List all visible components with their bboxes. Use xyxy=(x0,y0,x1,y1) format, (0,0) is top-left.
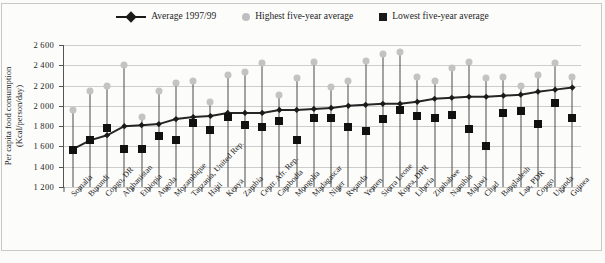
highest-point-marker xyxy=(448,65,455,72)
average-point-marker xyxy=(518,92,524,98)
highest-point-marker xyxy=(121,62,128,69)
lowest-point-marker xyxy=(206,126,214,134)
x-tick xyxy=(374,187,375,192)
highest-point-marker xyxy=(500,74,507,81)
highest-point-marker xyxy=(293,75,300,82)
lowest-point-marker xyxy=(534,120,542,128)
x-tick xyxy=(546,187,547,192)
lowest-point-marker xyxy=(172,136,180,144)
highest-point-marker xyxy=(431,77,438,84)
x-tick xyxy=(219,187,220,192)
y-tick-label: 1 400 xyxy=(33,162,54,172)
x-tick xyxy=(201,187,202,192)
lowest-point-marker xyxy=(499,109,507,117)
average-point-marker xyxy=(156,121,162,127)
highest-point-marker xyxy=(362,58,369,65)
lowest-point-marker xyxy=(258,123,266,131)
x-tick xyxy=(270,187,271,192)
average-point-marker xyxy=(466,94,472,100)
lowest-point-marker xyxy=(344,123,352,131)
average-point-marker xyxy=(362,102,368,108)
square-marker-icon xyxy=(379,13,387,21)
highest-point-marker xyxy=(397,49,404,56)
average-point-marker xyxy=(138,122,144,128)
lowest-point-marker xyxy=(293,136,301,144)
x-tick xyxy=(98,187,99,192)
legend-item-highest: Highest five-year average xyxy=(242,12,353,22)
highest-point-marker xyxy=(310,59,317,66)
plot-area xyxy=(63,45,581,188)
x-tick xyxy=(64,187,65,192)
lowest-point-marker xyxy=(310,114,318,122)
highest-point-marker xyxy=(86,87,93,94)
lowest-point-marker xyxy=(379,115,387,123)
x-tick xyxy=(477,187,478,192)
highest-point-marker xyxy=(465,59,472,66)
average-point-marker xyxy=(259,110,265,116)
highest-point-marker xyxy=(379,51,386,58)
highest-point-marker xyxy=(552,60,559,67)
highest-point-marker xyxy=(328,83,335,90)
lowest-point-marker xyxy=(465,125,473,133)
highest-point-marker xyxy=(104,82,111,89)
x-tick xyxy=(408,187,409,192)
lowest-point-marker xyxy=(241,121,249,129)
highest-point-marker xyxy=(483,75,490,82)
x-tick xyxy=(494,187,495,192)
x-tick xyxy=(356,187,357,192)
x-tick xyxy=(253,187,254,192)
legend-item-lowest: Lowest five-year average xyxy=(379,12,489,22)
average-point-marker xyxy=(207,113,213,119)
x-tick xyxy=(512,187,513,192)
highest-point-marker xyxy=(259,60,266,67)
y-tick-label: 1 600 xyxy=(33,141,54,151)
highest-point-marker xyxy=(276,91,283,98)
x-tick xyxy=(443,187,444,192)
average-point-marker xyxy=(242,110,248,116)
chart-legend: Average 1997/99 Highest five-year averag… xyxy=(0,9,605,25)
y-tick-label: 2 400 xyxy=(33,60,54,70)
average-point-marker xyxy=(569,85,575,91)
x-tick xyxy=(339,187,340,192)
lowest-point-marker xyxy=(413,112,421,120)
average-point-marker xyxy=(449,95,455,101)
line-diamond-marker-icon xyxy=(116,13,146,22)
highest-point-marker xyxy=(534,72,541,79)
lowest-point-marker xyxy=(275,117,283,125)
average-point-marker xyxy=(328,105,334,111)
highest-point-marker xyxy=(345,77,352,84)
average-point-marker xyxy=(483,94,489,100)
lowest-point-marker xyxy=(517,107,525,115)
highest-point-marker xyxy=(241,69,248,76)
average-point-marker xyxy=(276,107,282,113)
x-tick xyxy=(322,187,323,192)
lowest-point-marker xyxy=(362,127,370,135)
average-point-marker xyxy=(345,103,351,109)
chart-figure: Average 1997/99 Highest five-year averag… xyxy=(0,0,605,263)
x-tick xyxy=(288,187,289,192)
lowest-point-marker xyxy=(138,145,146,153)
x-tick xyxy=(305,187,306,192)
x-tick xyxy=(425,187,426,192)
lowest-point-marker xyxy=(86,136,94,144)
x-tick xyxy=(563,187,564,192)
highest-point-marker xyxy=(414,74,421,81)
lowest-point-marker xyxy=(482,142,490,150)
lowest-point-marker xyxy=(224,113,232,121)
average-polyline xyxy=(73,88,573,150)
average-point-marker xyxy=(294,107,300,113)
highest-point-marker xyxy=(173,79,180,86)
lowest-point-marker xyxy=(568,114,576,122)
lowest-point-marker xyxy=(155,132,163,140)
highest-point-marker xyxy=(69,106,76,113)
y-tick-label: 1 200 xyxy=(33,182,54,192)
average-point-marker xyxy=(535,89,541,95)
x-tick xyxy=(460,187,461,192)
highest-point-marker xyxy=(517,82,524,89)
lowest-point-marker xyxy=(431,114,439,122)
x-tick xyxy=(391,187,392,192)
x-tick xyxy=(167,187,168,192)
lowest-point-marker xyxy=(189,119,197,127)
average-point-marker xyxy=(414,99,420,105)
lowest-point-marker xyxy=(396,106,404,114)
